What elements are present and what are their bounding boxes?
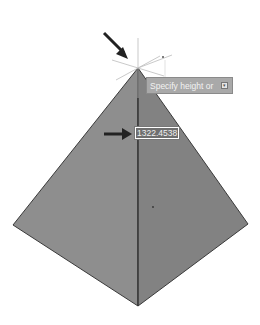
command-prompt-tooltip: Specify height or ▾ xyxy=(146,77,233,94)
down-arrow-icon[interactable]: ▾ xyxy=(221,82,228,89)
dynamic-input-value[interactable]: 1322.4538 xyxy=(136,128,178,138)
drawing-viewport[interactable] xyxy=(0,0,260,325)
tooltip-prompt-text: Specify height or xyxy=(150,81,213,91)
pyramid-left-face xyxy=(13,68,138,306)
pyramid-right-face xyxy=(138,68,248,306)
dynamic-input-field[interactable]: 1322.4538 xyxy=(134,126,180,140)
annotation-arrow-apex-icon xyxy=(104,33,128,59)
